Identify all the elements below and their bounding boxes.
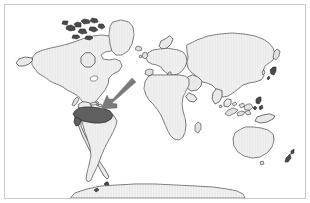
map-frame-border [4, 4, 306, 199]
world-map-figure: World map with highlighted region Northe… [0, 0, 310, 203]
world-map-svg [5, 5, 305, 198]
